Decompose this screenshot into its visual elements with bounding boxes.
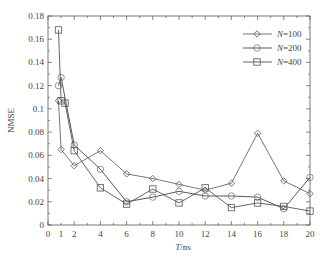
plot-frame xyxy=(48,16,310,225)
series-n-400 xyxy=(55,27,313,215)
y-tick-label: 0.04 xyxy=(28,174,44,184)
y-tick-label: 0.06 xyxy=(28,150,44,160)
x-tick-label: 16 xyxy=(253,229,263,239)
x-axis-label: T/ns xyxy=(175,242,191,252)
x-tick-label: 20 xyxy=(306,229,316,239)
y-tick-label: 0.1 xyxy=(33,104,44,114)
y-tick-label: 0.14 xyxy=(28,57,44,67)
x-tick-label: 18 xyxy=(279,229,289,239)
series-n-100 xyxy=(55,98,313,197)
x-tick-label: 6 xyxy=(124,229,129,239)
y-tick-label: 0.12 xyxy=(28,81,44,91)
legend-label: N=100 xyxy=(276,29,302,39)
legend-label: N=400 xyxy=(276,57,302,67)
y-tick-label: 0.16 xyxy=(28,34,44,44)
series-n-200 xyxy=(55,74,313,212)
x-tick-label: 10 xyxy=(175,229,185,239)
y-tick-label: 0 xyxy=(40,220,45,230)
legend-label: N=200 xyxy=(276,43,302,53)
x-tick-label: 14 xyxy=(227,229,237,239)
x-tick-label: 1 xyxy=(59,229,64,239)
x-tick-label: 2 xyxy=(72,229,77,239)
x-tick-label: 0 xyxy=(46,229,51,239)
y-tick-label: 0.02 xyxy=(28,197,44,207)
y-tick-label: 0.08 xyxy=(28,127,44,137)
y-tick-label: 0.18 xyxy=(28,11,44,21)
legend: N=100N=200N=400 xyxy=(243,29,302,67)
chart: 00.020.040.060.080.10.120.140.160.180124… xyxy=(0,0,327,266)
line-chart: 00.020.040.060.080.10.120.140.160.180124… xyxy=(0,0,327,266)
x-tick-label: 12 xyxy=(201,229,210,239)
y-axis-label: NMSE xyxy=(6,108,16,134)
x-tick-label: 8 xyxy=(151,229,156,239)
x-tick-label: 4 xyxy=(98,229,103,239)
